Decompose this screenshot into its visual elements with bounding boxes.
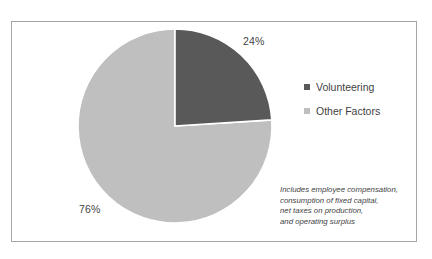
chart-legend: Volunteering Other Factors [304, 80, 414, 128]
pie-label-other-factors: 76% [79, 203, 101, 215]
footnote-line-1: Includes employee compensation, [280, 185, 420, 196]
legend-label-volunteering: Volunteering [316, 80, 374, 94]
footnote-line-3: net taxes on production, [280, 206, 420, 217]
footnote-line-4: and operating surplus [280, 217, 420, 228]
legend-swatch-icon-volunteering [304, 84, 310, 90]
footnote-line-2: consumption of fixed capital, [280, 196, 420, 207]
chart-footnote: Includes employee compensation, consumpt… [280, 185, 420, 227]
legend-label-other-factors: Other Factors [316, 104, 380, 118]
legend-item-other-factors[interactable]: Other Factors [304, 104, 414, 118]
pie-label-volunteering: 24% [243, 35, 265, 47]
legend-swatch-icon-other-factors [304, 108, 310, 114]
pie-chart: 24% 76% Volunteering Other Factors Inclu… [0, 0, 432, 259]
legend-item-volunteering[interactable]: Volunteering [304, 80, 414, 94]
